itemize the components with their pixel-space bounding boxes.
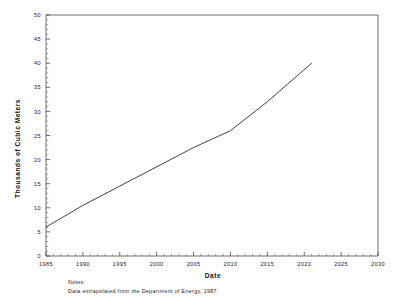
- x-tick-label: 1990: [76, 261, 90, 267]
- y-tick-label: 50: [34, 12, 41, 18]
- y-axis-major-ticks: [46, 15, 50, 256]
- x-tick-label: 2010: [224, 261, 238, 267]
- y-tick-label: 15: [34, 181, 41, 187]
- notes-heading: Notes:: [68, 279, 85, 285]
- y-tick-label: 0: [38, 253, 41, 259]
- x-tick-label: 2000: [150, 261, 164, 267]
- plot-frame: [46, 15, 378, 256]
- y-tick-label: 40: [34, 60, 41, 66]
- x-tick-label: 2025: [334, 261, 348, 267]
- x-tick-label: 2015: [260, 261, 274, 267]
- x-axis-major-ticks: [46, 252, 378, 256]
- y-tick-label: 25: [34, 133, 41, 139]
- y-axis-title: Thousands of Cubic Meters: [14, 99, 21, 198]
- x-tick-label: 2005: [187, 261, 201, 267]
- chart-figure: 05101520253035404550 1985199019952000200…: [0, 0, 394, 298]
- clipped-top-text: [46, 0, 346, 9]
- y-tick-label: 10: [34, 205, 41, 211]
- x-axis-tick-labels: 1985199019952000200520102015202020252030: [39, 261, 385, 267]
- y-tick-label: 30: [34, 109, 41, 115]
- x-axis-title: Date: [205, 272, 221, 279]
- line-chart-svg: 05101520253035404550 1985199019952000200…: [0, 0, 394, 298]
- x-tick-label: 1985: [39, 261, 53, 267]
- y-tick-label: 20: [34, 157, 41, 163]
- x-tick-label: 1995: [113, 261, 127, 267]
- y-tick-label: 45: [34, 36, 41, 42]
- notes-body: Data extrapolated from the Department of…: [68, 288, 219, 294]
- y-tick-label: 35: [34, 84, 41, 90]
- data-series-line: [46, 63, 312, 227]
- x-tick-label: 2020: [297, 261, 311, 267]
- y-axis-tick-labels: 05101520253035404550: [34, 12, 41, 259]
- x-tick-label: 2030: [371, 261, 385, 267]
- y-tick-label: 5: [38, 229, 41, 235]
